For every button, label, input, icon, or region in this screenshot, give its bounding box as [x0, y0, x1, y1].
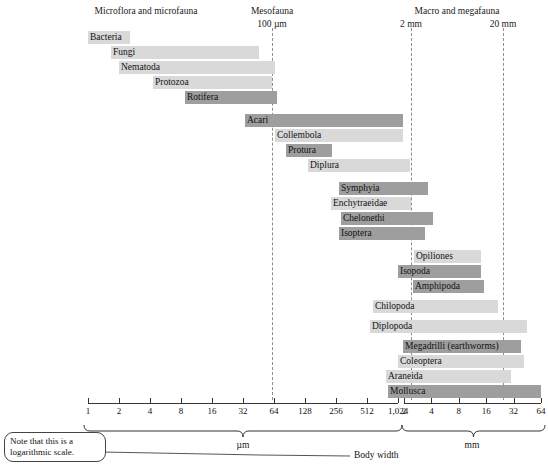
- bar-label: Coleoptera: [398, 355, 444, 368]
- bar-label: Bacteria: [88, 31, 124, 44]
- chart-canvas: Microflora and microfaunaMesofauna100 µm…: [0, 0, 548, 470]
- bar-label: Enchytraeidae: [331, 197, 389, 210]
- bar-label: Araneida: [386, 370, 425, 383]
- callout-leader-line: [0, 0, 548, 470]
- body-width-label: Body width: [354, 450, 399, 460]
- bar-label: Protozoa: [153, 76, 191, 89]
- log-scale-note: Note that this is a logarithmic scale.: [4, 432, 106, 462]
- bar-label: Megadrilli (earthworms): [403, 340, 501, 353]
- bar-label: Chilopoda: [373, 300, 417, 313]
- bar-label: Diplura: [308, 159, 341, 172]
- log-scale-note-text: Note that this is a logarithmic scale.: [10, 436, 74, 457]
- bar-label: Isoptera: [339, 227, 374, 240]
- bar-label: Opiliones: [414, 250, 455, 263]
- bar-label: Collembola: [275, 129, 323, 142]
- bar-label: Diplopoda: [370, 320, 414, 333]
- bar-label: Symphyia: [339, 182, 382, 195]
- bar-label: Nematoda: [119, 61, 162, 74]
- bar-label: Mollusca: [388, 385, 427, 398]
- bar-label: Rotifera: [185, 91, 220, 104]
- bar-label: Protura: [286, 144, 318, 157]
- bar-label: Fungi: [111, 46, 137, 59]
- bar-label: Acari: [245, 114, 270, 127]
- bar-label: Amphipoda: [413, 280, 462, 293]
- bar-label: Chelonethi: [341, 212, 387, 225]
- bar-label: Isopoda: [398, 265, 432, 278]
